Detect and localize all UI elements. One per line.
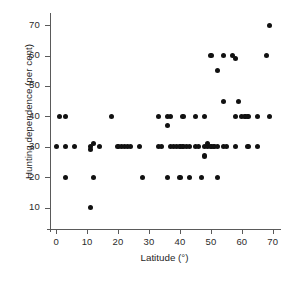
x-tick-label: 50 [198, 236, 224, 247]
data-point [109, 114, 114, 119]
x-tick-label: 10 [74, 236, 100, 247]
data-point [180, 114, 185, 119]
scatter-plot-figure: 10203040506070 010203040506070 Hunting d… [0, 0, 295, 292]
data-point [264, 53, 269, 58]
data-point [196, 144, 201, 149]
x-tick-mark [118, 229, 119, 234]
data-point [63, 144, 68, 149]
x-tick-mark [273, 229, 274, 234]
data-point [156, 114, 161, 119]
x-tick-mark [87, 229, 88, 234]
x-tick-label: 0 [43, 236, 69, 247]
data-point [187, 175, 192, 180]
data-point [236, 99, 241, 104]
data-point [91, 141, 96, 146]
y-tick-label: 10 [14, 201, 40, 212]
data-point [245, 114, 250, 119]
data-point [159, 144, 164, 149]
data-point [233, 114, 238, 119]
data-point [245, 144, 250, 149]
data-point [233, 56, 238, 61]
data-point [221, 99, 226, 104]
data-point [54, 144, 59, 149]
data-point [199, 175, 204, 180]
data-point [168, 114, 173, 119]
data-point [63, 114, 68, 119]
x-tick-mark [211, 229, 212, 234]
x-tick-mark [149, 229, 150, 234]
x-tick-label: 40 [167, 236, 193, 247]
data-point [57, 114, 62, 119]
x-tick-label: 60 [229, 236, 255, 247]
data-point [224, 144, 229, 149]
data-point [255, 144, 260, 149]
data-point [88, 147, 93, 152]
data-point [267, 23, 272, 28]
data-point [215, 175, 220, 180]
data-point [128, 144, 133, 149]
data-point [202, 114, 207, 119]
x-tick-mark [180, 229, 181, 234]
data-point [177, 175, 182, 180]
x-tick-label: 30 [136, 236, 162, 247]
data-point [97, 144, 102, 149]
plot-data-area [50, 16, 279, 229]
data-point [63, 175, 68, 180]
y-axis-label: Hunting dependence (per cent) [23, 22, 34, 202]
data-point [187, 144, 192, 149]
data-point [165, 123, 170, 128]
data-point [267, 114, 272, 119]
x-tick-mark [56, 229, 57, 234]
data-point [233, 144, 238, 149]
data-point [215, 144, 220, 149]
data-point [88, 205, 93, 210]
x-tick-label: 20 [105, 236, 131, 247]
data-point [137, 144, 142, 149]
data-point [193, 114, 198, 119]
data-point [208, 53, 213, 58]
data-point [215, 68, 220, 73]
x-axis-label: Latitude (°) [50, 252, 279, 263]
data-point [91, 175, 96, 180]
data-point [72, 144, 77, 149]
data-point [140, 175, 145, 180]
data-point [255, 114, 260, 119]
x-tick-label: 70 [260, 236, 286, 247]
x-tick-mark [242, 229, 243, 234]
data-point [221, 53, 226, 58]
data-point [202, 153, 207, 158]
data-point [165, 175, 170, 180]
